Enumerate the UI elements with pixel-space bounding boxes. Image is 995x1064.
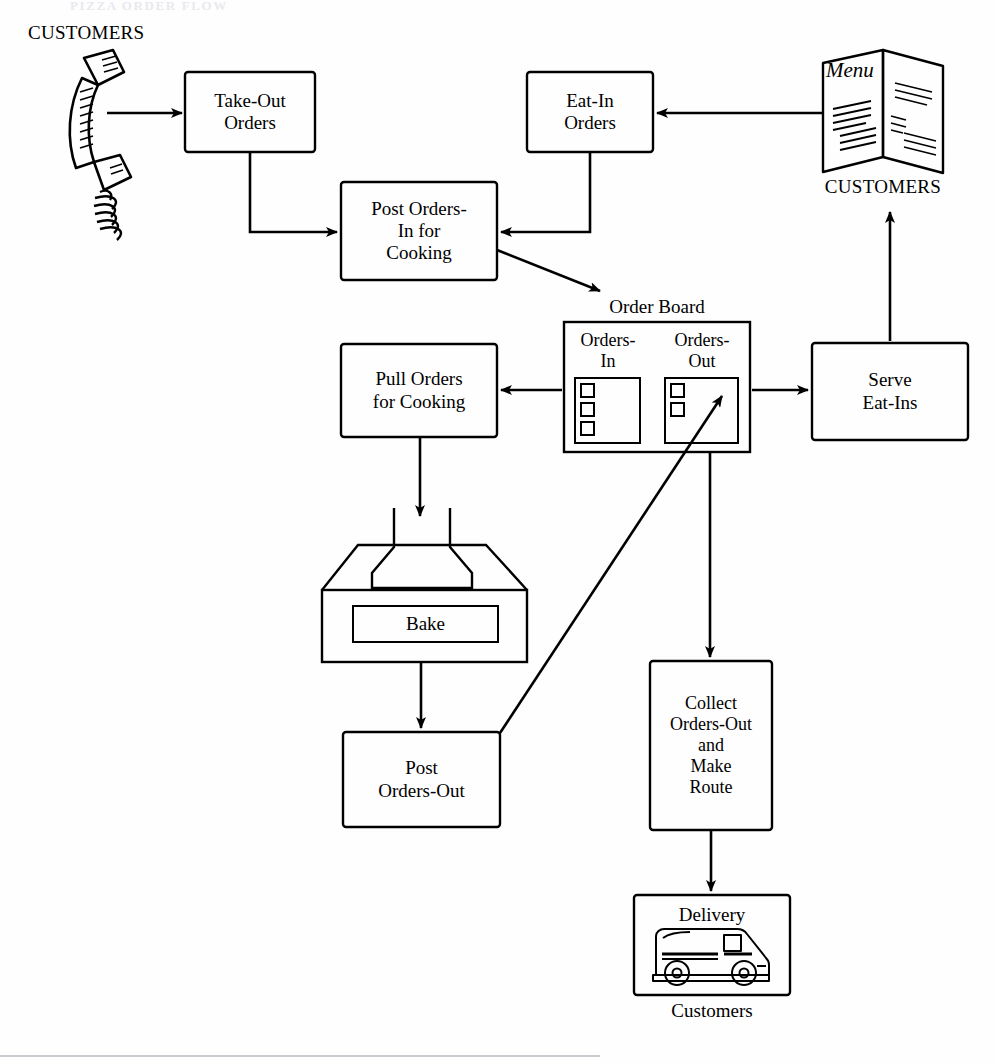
orders-in-panel — [575, 378, 640, 443]
pull-orders-label: Pull Orders for Cooking — [341, 344, 497, 437]
edge-postin-to-orderboard — [497, 250, 600, 291]
menu-customers-label: CUSTOMERS — [790, 176, 976, 198]
order-board-outer — [564, 322, 750, 452]
box-delivery — [634, 895, 790, 995]
box-eat-in-orders — [527, 72, 653, 152]
edge-postout-to-ordersout — [500, 396, 722, 733]
serve-eat-ins-label: Serve Eat-Ins — [812, 343, 968, 440]
box-collect-orders-out — [650, 661, 772, 830]
box-take-out-orders — [185, 72, 315, 152]
menu-icon-label: Menu — [826, 58, 896, 83]
phone-customers-label: CUSTOMERS — [28, 22, 198, 44]
post-orders-out-label: Post Orders-Out — [343, 732, 500, 827]
ticket — [581, 403, 594, 416]
orders-out-label: Orders- Out — [660, 326, 744, 376]
edge-takeout-to-postin — [250, 152, 337, 232]
ticket — [671, 384, 684, 397]
collect-orders-out-label: Collect Orders-Out and Make Route — [650, 661, 772, 830]
ticket — [581, 422, 594, 435]
delivery-customers-label: Customers — [634, 1000, 790, 1022]
box-pull-orders — [341, 344, 497, 437]
diagram-graphics — [0, 0, 995, 1064]
eat-in-orders-label: Eat-In Orders — [527, 72, 653, 152]
orders-out-panel — [665, 378, 738, 443]
delivery-label: Delivery — [634, 898, 790, 932]
ticket — [581, 384, 594, 397]
flowchart-canvas: PIZZA ORDER FLOW — [0, 0, 995, 1064]
ticket — [671, 403, 684, 416]
box-post-orders-out — [343, 732, 500, 827]
telephone-handset-icon — [70, 50, 131, 240]
folded-menu-icon — [823, 50, 943, 173]
post-orders-in-label: Post Orders- In for Cooking — [341, 182, 497, 280]
delivery-truck-icon — [653, 929, 769, 985]
pizza-oven-icon — [322, 508, 527, 662]
edge-eatin-to-postin — [501, 152, 590, 232]
order-board-title: Order Board — [564, 296, 750, 318]
bake-label: Bake — [353, 606, 498, 642]
orders-in-label: Orders- In — [566, 326, 650, 376]
take-out-orders-label: Take-Out Orders — [185, 72, 315, 152]
box-serve-eat-ins — [812, 343, 968, 440]
cut-off-page-title: PIZZA ORDER FLOW — [70, 0, 228, 14]
box-post-orders-in — [341, 182, 497, 280]
